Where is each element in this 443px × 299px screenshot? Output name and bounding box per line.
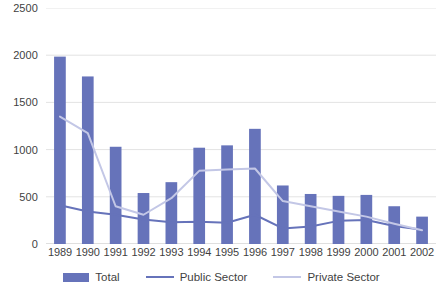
x-axis-tick: 1994 (185, 246, 213, 264)
plot-area (46, 8, 436, 244)
legend-line-swatch-icon (146, 276, 174, 278)
bar-series-total (54, 57, 428, 244)
chart-canvas (46, 8, 436, 244)
x-axis-tick: 1991 (102, 246, 130, 264)
gridlines (46, 8, 436, 244)
legend-item-total[interactable]: Total (63, 271, 119, 283)
bar (193, 148, 205, 244)
legend-label: Private Sector (307, 271, 379, 283)
x-axis-tick: 1996 (241, 246, 269, 264)
x-axis-tick: 1989 (46, 246, 74, 264)
y-axis-tick: 2000 (13, 49, 38, 61)
chart-legend: Total Public Sector Private Sector (0, 271, 443, 283)
legend-label: Public Sector (180, 271, 248, 283)
x-axis-tick: 1995 (213, 246, 241, 264)
legend-line-swatch-icon (273, 276, 301, 278)
bar (82, 76, 94, 244)
legend-bar-swatch-icon (63, 273, 89, 282)
y-axis-tick: 500 (19, 191, 38, 203)
x-axis: 1989 1990 1991 1992 1993 1994 1995 1996 … (46, 246, 436, 264)
x-axis-tick: 1998 (297, 246, 325, 264)
x-axis-tick: 1992 (130, 246, 158, 264)
y-axis: 2500 2000 1500 1000 500 0 (0, 0, 42, 252)
legend-item-private-sector[interactable]: Private Sector (273, 271, 379, 283)
y-axis-tick: 1000 (13, 144, 38, 156)
chart-container: 2500 2000 1500 1000 500 0 1989 1990 1991… (0, 0, 443, 299)
x-axis-tick: 2002 (408, 246, 436, 264)
bar (305, 194, 317, 244)
y-axis-tick: 1500 (13, 96, 38, 108)
x-axis-tick: 1997 (269, 246, 297, 264)
bar (249, 129, 261, 244)
legend-item-public-sector[interactable]: Public Sector (146, 271, 248, 283)
x-axis-tick: 1999 (325, 246, 353, 264)
bar (166, 182, 178, 244)
bar (221, 145, 233, 244)
x-axis-tick: 1990 (74, 246, 102, 264)
x-axis-tick: 1993 (157, 246, 185, 264)
bar (277, 185, 289, 244)
y-axis-tick: 0 (32, 238, 38, 250)
bar (54, 57, 66, 244)
x-axis-tick: 2001 (380, 246, 408, 264)
legend-label: Total (95, 271, 119, 283)
y-axis-tick: 2500 (13, 2, 38, 14)
x-axis-tick: 2000 (352, 246, 380, 264)
